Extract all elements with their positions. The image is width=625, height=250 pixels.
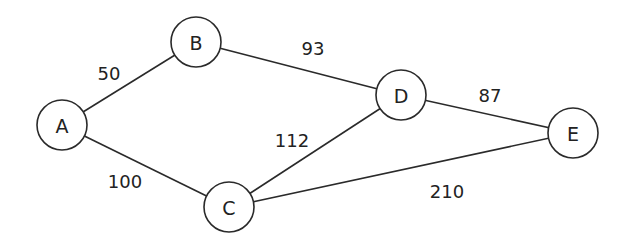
weighted-graph-diagram: 501009311287210 ABCDE <box>0 0 625 250</box>
edge-b-d <box>196 42 401 95</box>
edge-weight-a-b: 50 <box>98 63 121 84</box>
node-c: C <box>204 182 254 232</box>
node-e: E <box>548 108 598 158</box>
edge-weight-c-d: 112 <box>275 130 309 151</box>
edge-weight-d-e: 87 <box>479 85 502 106</box>
node-label: D <box>394 85 409 107</box>
node-a: A <box>37 100 87 150</box>
node-d: D <box>376 70 426 120</box>
edge-c-d <box>229 95 401 207</box>
node-label: A <box>56 115 69 137</box>
edge-weight-c-e: 210 <box>430 181 464 202</box>
node-label: B <box>189 32 202 54</box>
node-label: C <box>222 197 235 219</box>
node-label: E <box>567 123 579 145</box>
edge-weight-a-c: 100 <box>108 171 142 192</box>
edge-labels-layer: 501009311287210 <box>98 38 502 202</box>
edge-weight-b-d: 93 <box>302 38 325 59</box>
edge-a-c <box>62 125 229 207</box>
node-b: B <box>171 17 221 67</box>
